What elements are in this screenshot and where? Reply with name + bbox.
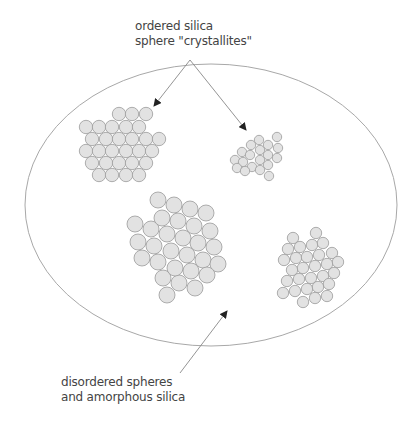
sample-boundary-ellipse [25, 64, 397, 346]
silica-sphere [183, 263, 199, 279]
silica-sphere [182, 201, 198, 217]
silica-sphere [272, 153, 281, 162]
silica-sphere [125, 156, 138, 169]
silica-sphere [255, 165, 264, 174]
silica-sphere [139, 107, 152, 120]
silica-sphere [264, 171, 273, 180]
crystallite-bottom-center [127, 192, 226, 303]
silica-sphere [127, 216, 143, 232]
arrow-icon [180, 311, 227, 373]
crystallite-bottom-right [277, 227, 343, 307]
silica-sphere [301, 283, 312, 294]
silica-sphere [139, 132, 152, 145]
silica-sphere [332, 256, 343, 267]
silica-sphere [125, 107, 138, 120]
boundary-ellipse [25, 64, 397, 346]
silica-sphere [119, 120, 132, 133]
silica-sphere [119, 144, 132, 157]
crystallite-top-right [230, 132, 282, 180]
silica-sphere [105, 120, 118, 133]
silica-sphere [309, 260, 320, 271]
silica-sphere [277, 287, 288, 298]
silica-sphere [132, 168, 145, 181]
silica-sphere [310, 227, 321, 238]
silica-sphere [139, 156, 152, 169]
silica-sphere [290, 252, 301, 263]
silica-sphere [323, 278, 334, 289]
silica-sphere [163, 243, 179, 259]
silica-sphere [202, 223, 218, 239]
silica-sphere [321, 290, 332, 301]
silica-sphere [132, 120, 145, 133]
silica-sphere [240, 166, 249, 175]
silica-sphere [132, 144, 145, 157]
silica-sphere [112, 156, 125, 169]
silica-sphere [272, 132, 281, 141]
label-disordered-amorphous: disordered spheres and amorphous silica [61, 375, 185, 405]
silica-sphere [167, 260, 183, 276]
silica-sphere [92, 120, 105, 133]
silica-sphere [99, 132, 112, 145]
silica-sphere [306, 239, 317, 250]
silica-sphere [166, 197, 182, 213]
silica-sphere [294, 241, 305, 252]
silica-sphere [130, 234, 146, 250]
silica-sphere [134, 250, 150, 266]
silica-sphere [150, 192, 166, 208]
silica-sphere [328, 267, 339, 278]
silica-sphere [112, 132, 125, 145]
label-bottom-line2: and amorphous silica [61, 390, 185, 405]
silica-sphere [175, 230, 191, 246]
arrow-icon [190, 60, 246, 130]
silica-sphere [152, 132, 165, 145]
crystallite-top-left [79, 107, 165, 181]
silica-sphere [79, 120, 92, 133]
silica-sphere [198, 205, 214, 221]
diagram-canvas [0, 0, 414, 422]
silica-sphere [159, 226, 175, 242]
silica-sphere [278, 254, 289, 265]
silica-sphere [171, 275, 187, 291]
silica-sphere [289, 285, 300, 296]
silica-sphere [273, 143, 282, 152]
silica-sphere [159, 287, 175, 303]
label-bottom-line1: disordered spheres [61, 375, 185, 390]
silica-sphere [297, 296, 308, 307]
silica-sphere [309, 292, 320, 303]
silica-sphere [154, 210, 170, 226]
silica-sphere [312, 281, 323, 292]
silica-sphere [301, 251, 312, 262]
silica-sphere [170, 213, 186, 229]
silica-sphere [92, 144, 105, 157]
silica-sphere [119, 168, 132, 181]
silica-sphere [206, 239, 222, 255]
silica-sphere [85, 132, 98, 145]
sphere-clusters [79, 107, 343, 307]
silica-sphere [317, 237, 328, 248]
silica-sphere [85, 156, 98, 169]
silica-sphere [297, 262, 308, 273]
silica-sphere [281, 275, 292, 286]
silica-sphere [282, 243, 293, 254]
silica-sphere [179, 247, 195, 263]
silica-sphere [146, 238, 162, 254]
silica-sphere [199, 267, 215, 283]
label-top-line1: ordered silica [135, 19, 252, 34]
silica-sphere [92, 168, 105, 181]
silica-sphere [105, 168, 118, 181]
silica-sphere [245, 150, 254, 159]
silica-sphere [145, 144, 158, 157]
silica-sphere [112, 107, 125, 120]
silica-sphere [150, 254, 166, 270]
silica-sphere [105, 144, 118, 157]
label-ordered-crystallites: ordered silica sphere "crystallites" [135, 19, 252, 49]
silica-sphere [313, 249, 324, 260]
silica-sphere [125, 132, 138, 145]
silica-sphere [293, 273, 304, 284]
label-top-line2: sphere "crystallites" [135, 34, 252, 49]
silica-sphere [99, 156, 112, 169]
silica-sphere [79, 144, 92, 157]
silica-sphere [187, 280, 203, 296]
silica-sphere [246, 140, 255, 149]
